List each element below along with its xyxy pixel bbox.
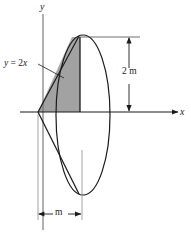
figure-container: y x y = 2x 2 m m <box>0 0 191 237</box>
horizontal-dimension-extension-lines <box>38 114 82 220</box>
y-axis-label: y <box>40 2 44 12</box>
cone-diagram-graphic <box>0 0 191 237</box>
equation-operator: = <box>11 58 16 68</box>
equation-label: y = 2x <box>4 59 27 69</box>
figure-caption <box>0 228 191 237</box>
equation-variable: x <box>23 58 27 68</box>
equation-lhs: y <box>4 58 8 68</box>
vertical-dimension-label: 2 m <box>122 67 137 77</box>
cone-base-ellipse <box>56 35 110 195</box>
x-axis-label: x <box>180 107 184 117</box>
horizontal-dimension-label: m <box>55 208 62 218</box>
